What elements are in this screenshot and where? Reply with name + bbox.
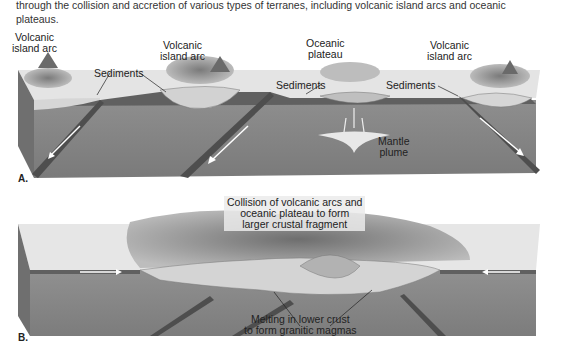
figure-caption: through the collision and accretion of v… [16, 0, 536, 26]
label-sediments-1: Sediments [94, 68, 144, 79]
label-sediments-3: Sediments [386, 80, 436, 91]
label-melting-lower-crust: Melting in lower crust to form granitic … [244, 314, 357, 336]
panel-a-block-diagram [0, 28, 569, 188]
panel-b: Collision of volcanic arcs and oceanic p… [0, 186, 569, 348]
label-volcanic-island-arc-1: Volcanic island arc [12, 32, 57, 54]
panel-a: Volcanic island arc Volcanic island arc … [0, 28, 569, 188]
panel-b-letter: B. [18, 332, 28, 343]
label-sediments-2: Sediments [276, 80, 326, 91]
label-volcanic-island-arc-2: Volcanic island arc [160, 40, 205, 62]
label-mantle-plume: Mantle plume [378, 136, 410, 158]
label-volcanic-island-arc-3: Volcanic island arc [427, 40, 472, 62]
label-collision: Collision of volcanic arcs and oceanic p… [224, 196, 365, 231]
label-oceanic-plateau: Oceanic plateau [306, 38, 345, 60]
panel-a-letter: A. [18, 173, 28, 184]
